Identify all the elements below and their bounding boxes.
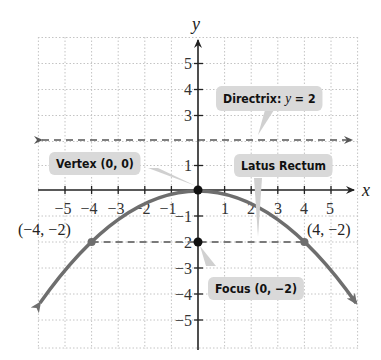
focus-callout: Focus (0, −2) [208,277,304,300]
svg-text:−5: −5 [175,312,192,329]
svg-text:5: 5 [326,200,334,217]
point-left-label: (−4, −2) [18,221,71,239]
svg-text:−3: −3 [107,200,124,217]
parabola-chart: −5 −4 −3 −2 −1 1 2 3 4 5 5 4 3 1 −1 −2 −… [0,0,381,360]
directrix-callout: Directrix: y = 2 [216,86,323,111]
svg-text:3: 3 [274,200,282,217]
svg-text:−4: −4 [175,286,192,303]
svg-text:4: 4 [184,81,192,98]
svg-text:3: 3 [184,107,192,124]
vertex-callout: Vertex (0, 0) [49,152,141,175]
svg-text:5: 5 [184,55,192,72]
svg-text:−4: −4 [80,200,97,217]
svg-text:−5: −5 [54,200,71,217]
point-right [300,238,308,246]
x-tick-labels: −5 −4 −3 −2 −1 1 2 3 4 5 [54,200,334,217]
svg-text:−3: −3 [175,260,192,277]
svg-text:−1: −1 [175,208,192,225]
svg-text:4: 4 [300,200,308,217]
point-left [88,238,96,246]
svg-text:1: 1 [184,157,192,174]
y-axis-label: y [190,14,200,34]
focus-point [194,238,203,247]
latus-rectum-callout: Latus Rectum [234,154,333,177]
point-right-label: (4, −2) [307,221,351,239]
vertex-point [194,186,203,195]
svg-text:1: 1 [221,200,229,217]
svg-text:−1: −1 [159,200,176,217]
x-axis-label: x [361,180,370,200]
